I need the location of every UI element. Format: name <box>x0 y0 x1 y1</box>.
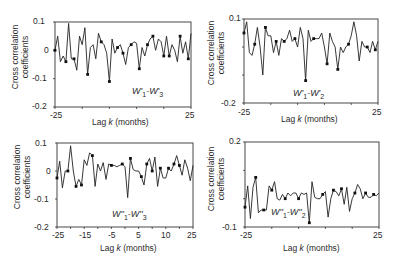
data-point-marker <box>244 206 247 209</box>
data-point-marker <box>353 192 356 195</box>
series-legend: W''1-W''2 <box>271 207 306 219</box>
data-point-marker <box>332 189 335 192</box>
data-point-marker <box>297 197 300 200</box>
y-tick-label: -0.1 <box>222 222 237 232</box>
data-point-marker <box>372 193 375 196</box>
data-point-marker <box>270 189 273 192</box>
data-point-marker <box>284 197 287 200</box>
x-tick-label: 25 <box>373 230 382 240</box>
x-axis-label: Lag k (months) <box>283 243 340 253</box>
data-point-marker <box>321 193 324 196</box>
y-tick-label: 0.2 <box>229 136 241 146</box>
data-point-marker <box>364 192 367 195</box>
data-point-marker <box>262 209 265 212</box>
data-point-marker <box>340 187 343 190</box>
x-tick-label: -25 <box>240 230 252 240</box>
data-series-line <box>245 177 379 222</box>
plot-area <box>0 0 397 264</box>
chart-panel-w1pp-w2pp: Cross correlationcoefficients 0.2 -0.1 -… <box>0 0 397 264</box>
data-point-marker <box>254 176 257 179</box>
data-point-marker <box>308 221 311 224</box>
